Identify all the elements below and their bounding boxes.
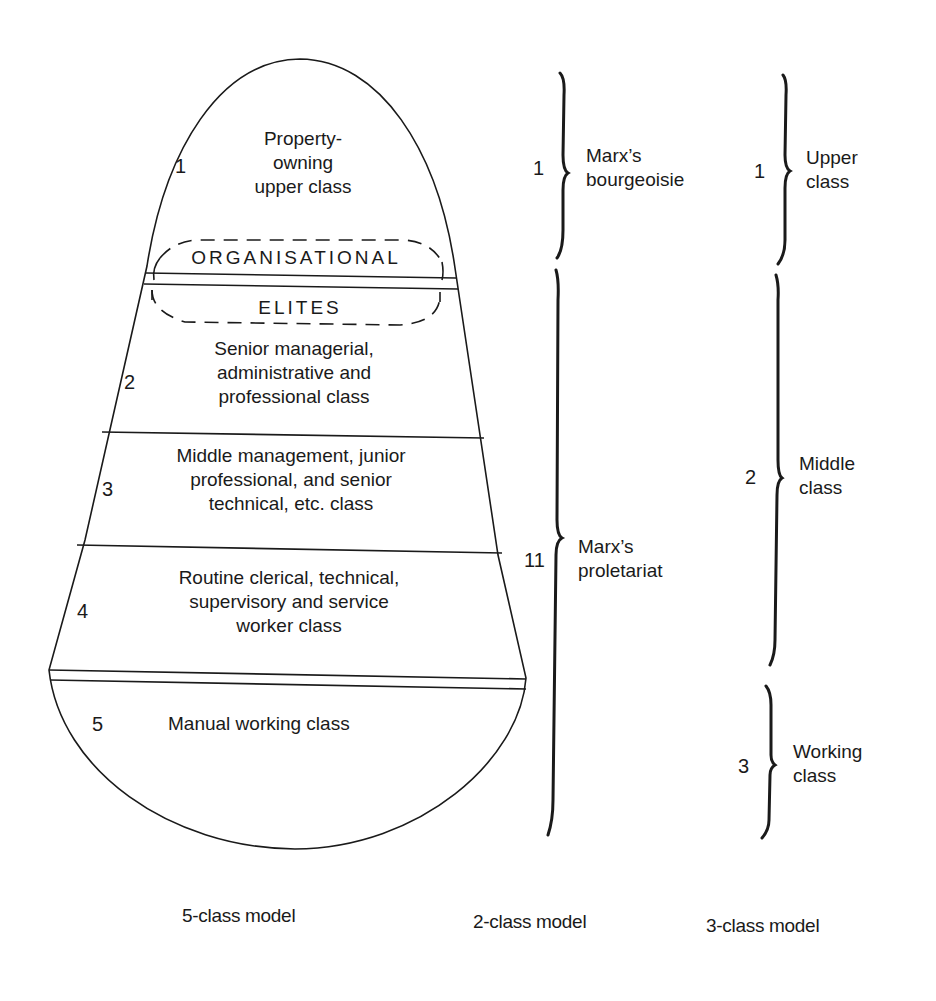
separator-1b (144, 284, 458, 289)
class-models-diagram: 1 Property- owning upper class ORGANISAT… (0, 0, 936, 1001)
bourgeoisie-line-1: Marx’s (586, 144, 684, 168)
separator-4b (50, 680, 526, 689)
layer-3-number: 3 (102, 477, 113, 501)
layer-5-label: Manual working class (168, 712, 350, 736)
layer-4-line-3: worker class (179, 614, 400, 638)
brace-middle (770, 275, 782, 665)
proletariat-label: Marx’s proletariat (578, 535, 663, 583)
layer-1-label: Property- owning upper class (254, 127, 351, 199)
layer-3-line-1: Middle management, junior (176, 444, 405, 468)
layer-2-line-1: Senior managerial, (214, 337, 373, 361)
working-class-label: Working class (793, 740, 862, 788)
caption-five-class: 5-class model (182, 905, 295, 927)
layer-4-line-1: Routine clerical, technical, (179, 566, 400, 590)
proletariat-number: 11 (524, 548, 545, 572)
caption-three-class: 3-class model (706, 915, 819, 937)
layer-1-line-2: owning (254, 151, 351, 175)
brace-bourgeoisie (557, 73, 568, 258)
layer-2-line-3: professional class (214, 385, 373, 409)
bourgeoisie-line-2: bourgeoisie (586, 168, 684, 192)
proletariat-line-1: Marx’s (578, 535, 663, 559)
separator-1a (146, 273, 456, 278)
bourgeoisie-number: 1 (533, 156, 544, 180)
middle-class-label: Middle class (799, 452, 855, 500)
working-class-line-2: class (793, 764, 862, 788)
proletariat-line-2: proletariat (578, 559, 663, 583)
middle-class-line-2: class (799, 476, 855, 500)
upper-class-label: Upper class (806, 146, 858, 194)
layer-1-line-3: upper class (254, 175, 351, 199)
middle-class-line-1: Middle (799, 452, 855, 476)
layer-4-label: Routine clerical, technical, supervisory… (179, 566, 400, 638)
layer-2-number: 2 (124, 370, 135, 394)
layer-2-label: Senior managerial, administrative and pr… (214, 337, 373, 409)
three-class-braces (762, 75, 790, 838)
working-class-line-1: Working (793, 740, 862, 764)
upper-class-line-2: class (806, 170, 858, 194)
elites-label-bottom: ELITES (258, 296, 341, 320)
layer-4-number: 4 (77, 599, 88, 623)
separator-2 (102, 432, 484, 438)
middle-class-number: 2 (745, 465, 756, 489)
layer-4-line-2: supervisory and service (179, 590, 400, 614)
brace-proletariat (548, 270, 562, 835)
layer-3-line-3: technical, etc. class (176, 492, 405, 516)
brace-upper (778, 75, 790, 264)
layer-3-label: Middle management, junior professional, … (176, 444, 405, 516)
layer-5-number: 5 (92, 712, 103, 736)
upper-class-line-1: Upper (806, 146, 858, 170)
working-class-number: 3 (738, 754, 749, 778)
layer-3-line-2: professional, and senior (176, 468, 405, 492)
brace-working (762, 686, 775, 838)
layer-1-line-1: Property- (254, 127, 351, 151)
bourgeoisie-label: Marx’s bourgeoisie (586, 144, 684, 192)
layer-2-line-2: administrative and (214, 361, 373, 385)
separator-3 (77, 545, 502, 553)
upper-class-number: 1 (754, 159, 765, 183)
elites-label-top: ORGANISATIONAL (191, 246, 401, 270)
separator-4a (49, 670, 526, 679)
caption-two-class: 2-class model (473, 911, 586, 933)
two-class-braces (548, 73, 568, 835)
layer-1-number: 1 (175, 154, 186, 178)
diagram-shapes (0, 0, 936, 1001)
